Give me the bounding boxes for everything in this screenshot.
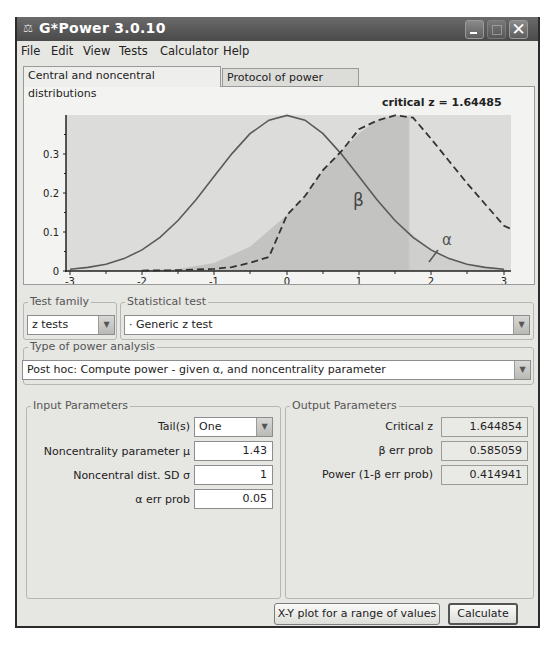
power-analysis-group: Type of power analysis Post hoc: Compute… xyxy=(23,347,534,385)
statistical-test-value: · Generic z test xyxy=(129,318,213,331)
beta-err-label: β err prob xyxy=(378,444,433,457)
power-label: Power (1-β err prob) xyxy=(322,468,433,481)
menu-calculator[interactable]: Calculator xyxy=(160,44,218,58)
critical-z-label: Critical z xyxy=(385,420,433,433)
svg-text:3: 3 xyxy=(501,276,507,284)
svg-text:0.1: 0.1 xyxy=(43,227,59,238)
tab-protocol[interactable]: Protocol of power analyses xyxy=(222,68,359,86)
menu-help[interactable]: Help xyxy=(223,44,249,58)
svg-text:1: 1 xyxy=(356,276,362,284)
x-tick-labels: -3 -2 -1 0 1 2 3 xyxy=(65,276,507,284)
alpha-label: α xyxy=(442,231,452,249)
tails-label: Tail(s) xyxy=(158,420,190,433)
test-family-group: Test family z tests ▼ xyxy=(23,302,117,340)
test-family-value: z tests xyxy=(32,318,68,331)
noncentral-sd-label: Noncentral dist. SD σ xyxy=(73,469,190,482)
svg-text:2: 2 xyxy=(428,276,434,284)
test-family-select[interactable]: z tests ▼ xyxy=(27,315,115,335)
beta-label: β xyxy=(353,190,364,210)
input-parameters-title: Input Parameters xyxy=(31,399,130,412)
tab-distributions[interactable]: Central and noncentral distributions xyxy=(23,66,221,87)
tails-select[interactable]: One ▼ xyxy=(194,417,273,437)
power-analysis-value: Post hoc: Compute power - given α, and n… xyxy=(27,363,386,376)
close-icon: ✕ xyxy=(511,19,525,39)
chevron-down-icon[interactable]: ▼ xyxy=(513,316,529,334)
power-analysis-select[interactable]: Post hoc: Compute power - given α, and n… xyxy=(22,360,531,380)
menu-edit[interactable]: Edit xyxy=(51,44,73,58)
power-output: 0.414941 xyxy=(441,465,528,485)
gpower-window: ⚖ G*Power 3.0.10 ✕ File Edit View Tests … xyxy=(15,17,540,628)
svg-text:0: 0 xyxy=(284,276,290,284)
statistical-test-group: Statistical test · Generic z test ▼ xyxy=(120,302,534,340)
svg-text:0: 0 xyxy=(53,266,59,277)
distribution-chart: -3 -2 -1 0 1 2 3 0 0.1 0.2 0.3 β α crit xyxy=(23,86,535,285)
svg-text:-2: -2 xyxy=(137,276,147,284)
tails-value: One xyxy=(199,420,221,433)
statistical-test-select[interactable]: · Generic z test ▼ xyxy=(124,315,530,335)
menu-tests[interactable]: Tests xyxy=(119,44,148,58)
input-parameters-group: Input Parameters Tail(s) One ▼ Noncentra… xyxy=(26,406,281,599)
critical-z-output: 1.644854 xyxy=(441,417,528,437)
close-button[interactable]: ✕ xyxy=(509,20,528,39)
output-parameters-group: Output Parameters Critical z 1.644854 β … xyxy=(285,406,534,599)
chevron-down-icon[interactable]: ▼ xyxy=(256,418,272,436)
menu-file[interactable]: File xyxy=(21,44,40,58)
minimize-button[interactable] xyxy=(465,20,484,39)
beta-err-output: 0.585059 xyxy=(441,441,528,461)
chevron-down-icon[interactable]: ▼ xyxy=(514,361,530,379)
maximize-button[interactable] xyxy=(487,20,506,39)
svg-text:0.2: 0.2 xyxy=(43,188,59,199)
menu-view[interactable]: View xyxy=(83,44,110,58)
alpha-input[interactable]: 0.05 xyxy=(194,489,273,509)
test-family-label: Test family xyxy=(28,295,91,308)
noncentrality-input[interactable]: 1.43 xyxy=(194,441,273,461)
window-title: G*Power 3.0.10 xyxy=(39,20,166,36)
svg-text:-3: -3 xyxy=(65,276,75,284)
title-bar[interactable]: ⚖ G*Power 3.0.10 ✕ xyxy=(17,17,538,41)
noncentrality-label: Noncentrality parameter μ xyxy=(44,445,190,458)
noncentral-sd-input[interactable]: 1 xyxy=(194,465,273,485)
calculate-button[interactable]: Calculate xyxy=(448,603,518,625)
distribution-plot: -3 -2 -1 0 1 2 3 0 0.1 0.2 0.3 β α crit xyxy=(24,87,534,284)
app-icon: ⚖ xyxy=(23,22,35,35)
chevron-down-icon[interactable]: ▼ xyxy=(98,316,114,334)
xy-plot-button[interactable]: X-Y plot for a range of values xyxy=(274,603,440,625)
alpha-label: α err prob xyxy=(135,493,190,506)
critical-z-label: critical z = 1.64485 xyxy=(382,96,502,109)
svg-text:0.3: 0.3 xyxy=(43,149,59,160)
menu-bar: File Edit View Tests Calculator Help xyxy=(17,42,538,60)
y-tick-labels: 0 0.1 0.2 0.3 xyxy=(43,149,59,277)
power-analysis-label: Type of power analysis xyxy=(28,340,157,353)
svg-text:-1: -1 xyxy=(209,276,219,284)
output-parameters-title: Output Parameters xyxy=(290,399,399,412)
statistical-test-label: Statistical test xyxy=(125,295,208,308)
